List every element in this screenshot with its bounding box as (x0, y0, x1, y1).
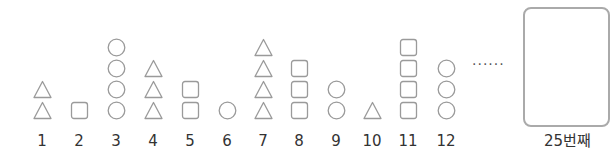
triangle-shape (144, 80, 163, 99)
figure-number-label: 2 (59, 131, 99, 151)
square-shape (181, 101, 200, 120)
triangle-shape (144, 59, 163, 78)
circle-shape (437, 59, 456, 78)
figure-number-label: 9 (316, 131, 356, 151)
triangle-shape (254, 59, 273, 78)
square-shape (399, 38, 418, 57)
circle-shape (327, 80, 346, 99)
triangle-shape (254, 80, 273, 99)
figure-number-label: 8 (279, 131, 319, 151)
figure-number-label: 3 (96, 131, 136, 151)
square-shape (399, 101, 418, 120)
ellipsis: ······ (472, 56, 505, 72)
square-shape (399, 80, 418, 99)
circle-shape (437, 101, 456, 120)
circle-shape (437, 80, 456, 99)
circle-shape (107, 101, 126, 120)
figure-number-label: 7 (243, 131, 283, 151)
figure-number-label: 5 (170, 131, 210, 151)
triangle-shape (33, 101, 52, 120)
answer-box (523, 7, 610, 127)
figure-number-label: 10 (352, 131, 392, 151)
circle-shape (107, 59, 126, 78)
figure-number-label: 11 (388, 131, 428, 151)
square-shape (399, 59, 418, 78)
square-shape (181, 80, 200, 99)
figure-number-label: 4 (133, 131, 173, 151)
triangle-shape (363, 101, 382, 120)
square-shape (290, 80, 309, 99)
triangle-shape (254, 101, 273, 120)
shape-pattern-diagram: 123456789101112 ······ 25번째 (0, 0, 615, 161)
answer-box-label: 25번째 (523, 131, 612, 151)
triangle-shape (254, 38, 273, 57)
figure-number-label: 1 (22, 131, 62, 151)
circle-shape (107, 80, 126, 99)
circle-shape (327, 101, 346, 120)
square-shape (70, 101, 89, 120)
triangle-shape (33, 80, 52, 99)
triangle-shape (144, 101, 163, 120)
figure-number-label: 6 (207, 131, 247, 151)
circle-shape (218, 101, 237, 120)
square-shape (290, 101, 309, 120)
square-shape (290, 59, 309, 78)
figure-number-label: 12 (426, 131, 466, 151)
circle-shape (107, 38, 126, 57)
